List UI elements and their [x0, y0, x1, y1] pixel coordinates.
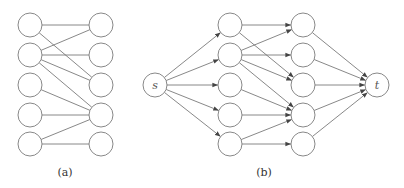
node-A4 [218, 103, 242, 127]
node-B4 [291, 103, 315, 127]
node-A5 [218, 132, 242, 156]
edge-s-A1 [164, 33, 220, 78]
node-A3 [218, 73, 242, 97]
flow-network-figure: (a) st (b) [0, 0, 404, 188]
node-L4 [18, 103, 42, 127]
edge-L5-R4 [41, 120, 90, 140]
edge-L3-R4 [41, 90, 90, 111]
flow-network-edges [164, 25, 367, 144]
edge-B5-t [312, 92, 367, 136]
node-B3 [291, 73, 315, 97]
caption-a: (a) [57, 166, 72, 179]
edge-s-A5 [164, 92, 220, 136]
edge-A5-B4 [241, 119, 292, 139]
node-L3 [18, 73, 42, 97]
node-R4 [89, 103, 113, 127]
node-R3 [89, 73, 113, 97]
edge-A2-B4 [239, 63, 293, 108]
edge-L2-R4 [39, 63, 92, 108]
edge-L2-R3 [41, 60, 90, 81]
edge-B1-t [312, 33, 367, 78]
node-R1 [89, 13, 113, 37]
node-B2 [291, 43, 315, 67]
node-B5 [291, 132, 315, 156]
node-B1 [291, 13, 315, 37]
edge-L2-R1 [41, 30, 90, 51]
node-L1 [18, 13, 42, 37]
node-label-t: t [375, 79, 380, 92]
caption-b: (b) [256, 166, 272, 179]
bipartite-edges [39, 25, 92, 144]
node-L5 [18, 132, 42, 156]
node-label-s: s [152, 79, 158, 92]
flow-network-panel: st (b) [143, 13, 389, 179]
node-R2 [89, 43, 113, 67]
node-A2 [218, 43, 242, 67]
node-A1 [218, 13, 242, 37]
node-L2 [18, 43, 42, 67]
bipartite-graph-panel: (a) [18, 13, 113, 179]
node-R5 [89, 132, 113, 156]
